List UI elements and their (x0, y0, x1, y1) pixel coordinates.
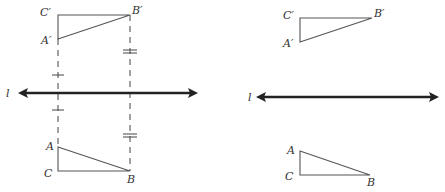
label-a: A (286, 144, 295, 157)
line-l-left (18, 88, 198, 98)
triangle-preimage-abc (300, 151, 370, 175)
label-c: C (44, 167, 53, 180)
triangle-image-abc-prime (58, 15, 130, 39)
line-label-l: l (6, 87, 10, 100)
label-c: C (285, 170, 294, 183)
label-b-prime: B′ (131, 4, 143, 17)
label-b: B (126, 173, 135, 186)
reflection-diagram: l C′ B′ A′ A C B l C′ B′ A′ A C B (0, 0, 445, 192)
label-a: A (45, 140, 54, 153)
label-c-prime: C′ (40, 6, 51, 19)
line-label-l: l (248, 91, 252, 104)
label-b: B (366, 176, 375, 189)
double-tick-mark-lower (123, 134, 137, 137)
label-b-prime: B′ (373, 7, 385, 20)
label-a-prime: A′ (40, 34, 52, 47)
left-construction: l C′ B′ A′ A C B (6, 4, 198, 186)
triangle-image-abc-prime (300, 18, 372, 42)
label-a-prime: A′ (282, 37, 294, 50)
label-c-prime: C′ (283, 9, 294, 22)
line-l-right (256, 92, 439, 102)
right-result: l C′ B′ A′ A C B (248, 7, 439, 189)
triangle-preimage-abc (58, 147, 130, 171)
